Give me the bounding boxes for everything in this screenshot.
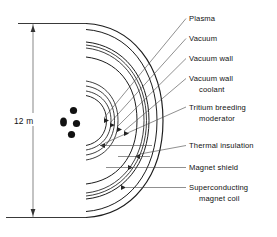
callout-label-vacuum: Vacuum bbox=[189, 34, 217, 43]
callout-label-line: Vacuum wall bbox=[189, 54, 233, 63]
inner-arrow-marks bbox=[100, 118, 152, 190]
plasma-dot bbox=[70, 107, 77, 114]
arrowhead-vacuum-wall-coolant bbox=[124, 131, 129, 136]
callout-label-superconducting-magnet-coil: Superconductingmagnet coil bbox=[189, 183, 248, 203]
callout-label-vacuum-wall-coolant: Vacuum wallcoolant bbox=[189, 74, 233, 94]
arc-magnet-coil-outer bbox=[86, 24, 163, 218]
callout-label-line: coolant bbox=[199, 85, 225, 94]
callout-label-tritium-breeding-moderator: Tritium breedingmoderator bbox=[189, 103, 246, 123]
dimension-arrow-down bbox=[31, 209, 36, 216]
arc-thermal-insulation-inner bbox=[86, 48, 144, 193]
callout-label-line: Thermal insulation bbox=[189, 141, 254, 150]
diagram-canvas: 12 m bbox=[0, 0, 277, 237]
callout-label-line: moderator bbox=[199, 114, 235, 123]
plasma-dot-cluster bbox=[60, 107, 80, 138]
shell-arcs-group bbox=[86, 24, 163, 218]
reactor-cross-section-figure: 12 m bbox=[0, 0, 277, 237]
callout-label-plasma: Plasma bbox=[189, 14, 216, 23]
arrowhead-vacuum-wall bbox=[117, 127, 122, 132]
callout-labels-group: PlasmaVacuumVacuum wallVacuum wallcoolan… bbox=[189, 14, 254, 203]
callout-label-line: Vacuum bbox=[189, 34, 217, 43]
callout-label-thermal-insulation: Thermal insulation bbox=[189, 141, 254, 150]
arc-tritium-breeding-moderator bbox=[86, 57, 137, 184]
callout-label-line: Magnet shield bbox=[189, 163, 238, 172]
callout-label-line: Superconducting bbox=[189, 183, 248, 192]
callout-label-line: Vacuum wall bbox=[189, 74, 233, 83]
callout-label-line: magnet coil bbox=[199, 194, 240, 203]
leader-line-vacuum-wall bbox=[117, 59, 186, 128]
callout-label-line: Tritium breeding bbox=[189, 103, 246, 112]
dimension-group: 12 m bbox=[6, 24, 86, 218]
arc-magnet-shield bbox=[86, 42, 149, 199]
leader-line-thermal-insulation bbox=[140, 146, 186, 155]
dimension-label: 12 m bbox=[14, 116, 33, 126]
arc-plasma-boundary bbox=[86, 96, 107, 146]
callout-label-magnet-shield: Magnet shield bbox=[189, 163, 238, 172]
callout-label-line: Plasma bbox=[189, 14, 216, 23]
leader-line-vacuum-wall-coolant bbox=[124, 79, 186, 132]
plasma-dot bbox=[60, 117, 67, 126]
callout-label-vacuum-wall: Vacuum wall bbox=[189, 54, 233, 63]
plasma-dot bbox=[68, 131, 75, 138]
dimension-arrow-up bbox=[31, 25, 36, 32]
arrowhead-magnet-coil bbox=[121, 185, 126, 190]
plasma-dot bbox=[73, 120, 80, 127]
